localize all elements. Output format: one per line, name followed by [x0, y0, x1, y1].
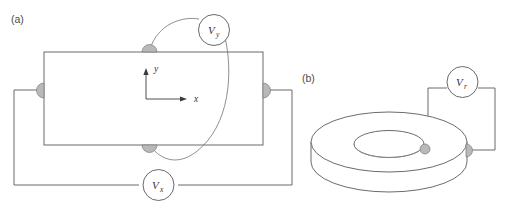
x-axis-label: x	[193, 94, 199, 104]
y-axis-label: y	[153, 64, 159, 74]
meter-vy-subscript: y	[215, 30, 220, 39]
vr-wire-outer	[468, 88, 495, 150]
panel-b-group: (b)	[302, 67, 495, 193]
physics-figure: (a) y x	[0, 0, 507, 210]
contact-top	[142, 45, 157, 52]
contact-outer	[466, 144, 473, 157]
contact-right	[263, 83, 271, 98]
contact-left	[37, 83, 45, 98]
meter-vr-subscript: r	[464, 82, 467, 91]
panel-a-group: (a) y x	[11, 13, 292, 201]
vy-wire-top	[150, 18, 199, 49]
panel-a-label: (a)	[11, 13, 24, 25]
meter-vx[interactable]: V x	[143, 170, 174, 201]
meter-vy[interactable]: V y	[199, 15, 230, 46]
contact-inner	[420, 144, 430, 154]
figure-container: (a) y x	[0, 0, 507, 210]
meter-vx-subscript: x	[159, 185, 164, 194]
panel-b-label: (b)	[302, 72, 315, 84]
meter-vr[interactable]: V r	[447, 67, 478, 98]
corbino-disk	[311, 112, 467, 192]
